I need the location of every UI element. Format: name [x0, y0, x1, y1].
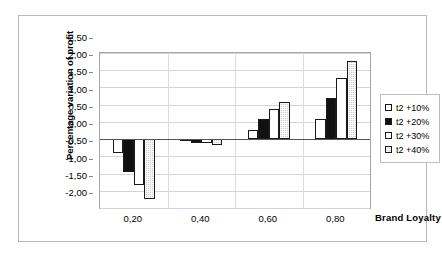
y-axis-tickmark — [89, 176, 93, 177]
bar — [123, 139, 133, 172]
legend-swatch-icon — [385, 104, 392, 111]
bar — [336, 78, 346, 139]
bar — [144, 139, 154, 199]
y-axis-tickmark — [89, 72, 93, 73]
legend-swatch-icon — [385, 146, 392, 153]
bar — [269, 109, 279, 139]
legend-item-label: t2 +30% — [396, 131, 429, 141]
y-axis-tickmark — [89, 55, 93, 56]
plot-inner — [100, 53, 370, 208]
x-axis-tick-label: 0,60 — [259, 213, 278, 224]
legend-item[interactable]: t2 +40% — [385, 143, 435, 156]
x-axis-tick-label: 0,40 — [191, 213, 210, 224]
chart-frame: Percentage variation of profit 2,502,001… — [18, 15, 427, 242]
y-axis-tick-label: 2,00 — [55, 50, 93, 60]
y-axis-tick-label: 2,50 — [55, 33, 93, 43]
category-separator — [303, 53, 304, 208]
y-axis-tick-label: 1,50 — [55, 67, 93, 77]
y-axis-tick-label: 0,00 — [55, 119, 93, 129]
y-axis-tickmark — [89, 107, 93, 108]
bar — [258, 119, 268, 139]
category-separator — [235, 53, 236, 208]
x-axis-tick-labels: 0,200,400,600,80 — [99, 213, 371, 227]
gridline — [100, 208, 370, 209]
y-axis-tickmark — [89, 124, 93, 125]
bar — [279, 102, 289, 139]
legend-item-label: t2 +40% — [396, 145, 429, 155]
y-axis-tick-label: -1,00 — [55, 154, 93, 164]
bar — [134, 139, 144, 184]
legend-item[interactable]: t2 +10% — [385, 101, 435, 114]
bar — [347, 61, 357, 140]
y-axis-tick-label: 0,50 — [55, 102, 93, 112]
y-axis-tick-label: -2,00 — [55, 188, 93, 198]
legend-item-label: t2 +20% — [396, 117, 429, 127]
y-axis-tick-label: -0,50 — [55, 136, 93, 146]
y-axis-tick-labels: 2,502,001,501,000,500,00-0,50-1,00-1,50-… — [55, 37, 93, 194]
y-axis-tickmark — [89, 141, 93, 142]
zero-baseline — [100, 139, 370, 140]
category-separator — [168, 53, 169, 208]
legend-swatch-icon — [385, 118, 392, 125]
x-axis-tick-label: 0,80 — [326, 213, 345, 224]
legend-item-label: t2 +10% — [396, 103, 429, 113]
bar — [248, 130, 258, 139]
y-axis-tick-label: -1,50 — [55, 171, 93, 181]
bar — [315, 119, 325, 139]
chart-container: Percentage variation of profit 2,502,001… — [0, 0, 442, 258]
bar — [326, 98, 336, 139]
y-axis-tickmark — [89, 90, 93, 91]
y-axis-tickmark — [89, 193, 93, 194]
x-axis-tick-label: 0,20 — [124, 213, 143, 224]
y-axis-tick-label: 1,00 — [55, 85, 93, 95]
legend-item[interactable]: t2 +20% — [385, 115, 435, 128]
legend-item[interactable]: t2 +30% — [385, 129, 435, 142]
bar — [113, 139, 123, 153]
chart-legend: t2 +10%t2 +20%t2 +30%t2 +40% — [380, 94, 440, 163]
legend-swatch-icon — [385, 132, 392, 139]
plot-area — [99, 52, 371, 209]
y-axis-tickmark — [89, 159, 93, 160]
x-axis-title: Brand Loyalty — [375, 212, 441, 223]
y-axis-tickmark — [89, 38, 93, 39]
